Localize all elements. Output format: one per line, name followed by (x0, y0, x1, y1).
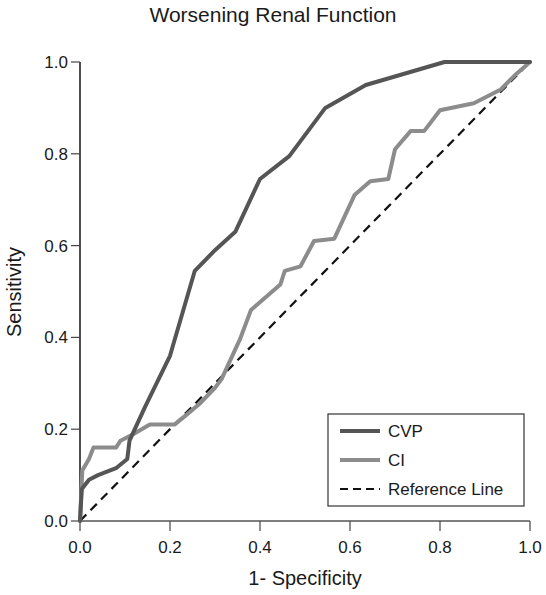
x-tick-label: 1.0 (518, 538, 542, 557)
y-axis-label: Sensitivity (3, 247, 25, 337)
x-axis-label: 1- Specificity (248, 567, 361, 589)
y-tick-label: 0.2 (44, 420, 68, 439)
x-tick-label: 0.6 (338, 538, 362, 557)
legend: CVPCIReference Line (328, 414, 524, 506)
x-tick-label: 0.4 (248, 538, 272, 557)
y-tick-label: 0.6 (44, 237, 68, 256)
x-tick-label: 0.0 (68, 538, 92, 557)
legend-label-ci: CI (388, 451, 405, 470)
y-tick-label: 1.0 (44, 53, 68, 72)
legend-label-reference-line: Reference Line (388, 480, 503, 499)
roc-chart: 0.00.20.40.60.81.00.00.20.40.60.81.0 CVP… (0, 0, 546, 595)
y-tick-label: 0.0 (44, 512, 68, 531)
legend-label-cvp: CVP (388, 422, 423, 441)
y-tick-label: 0.4 (44, 328, 68, 347)
x-tick-label: 0.8 (428, 538, 452, 557)
x-tick-label: 0.2 (158, 538, 182, 557)
y-tick-label: 0.8 (44, 145, 68, 164)
